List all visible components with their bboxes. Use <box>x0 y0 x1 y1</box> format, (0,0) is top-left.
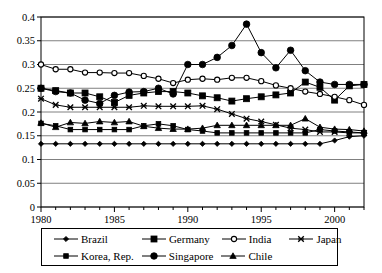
data-point <box>214 54 221 61</box>
data-point <box>140 88 147 95</box>
data-point <box>259 131 264 136</box>
data-point <box>347 98 352 103</box>
data-point <box>258 49 265 56</box>
x-tick-label: 1990 <box>177 214 198 225</box>
data-point <box>273 92 279 98</box>
data-point <box>185 90 191 96</box>
data-point <box>200 93 206 99</box>
legend-item-chile[interactable]: Chile <box>220 247 274 264</box>
data-point <box>97 94 103 100</box>
legend-label: Brazil <box>79 233 110 245</box>
legend-item-korea-rep[interactable]: Korea, Rep. <box>53 247 136 264</box>
data-point <box>303 131 308 136</box>
data-point <box>303 89 308 94</box>
data-point <box>229 42 236 49</box>
legend-item-germany[interactable]: Germany <box>141 230 212 247</box>
data-point <box>287 47 294 54</box>
legend-point <box>151 252 158 259</box>
legend-item-brazil[interactable]: Brazil <box>53 230 110 247</box>
legend-point <box>231 236 236 241</box>
y-tick-label: 0.25 <box>17 83 35 94</box>
data-point <box>273 65 280 72</box>
data-point <box>244 75 249 80</box>
data-point <box>200 76 205 81</box>
legend-point <box>151 236 157 242</box>
data-point <box>259 79 264 84</box>
legend-marker-square-small <box>53 250 79 262</box>
x-tick-label: 1980 <box>31 214 52 225</box>
data-point <box>229 98 235 104</box>
data-point <box>82 70 87 75</box>
data-point <box>361 81 368 88</box>
data-point <box>126 70 131 75</box>
data-point <box>171 80 176 85</box>
data-point <box>82 97 89 104</box>
data-point <box>111 92 118 99</box>
data-point <box>258 94 264 100</box>
data-point <box>274 131 279 136</box>
legend-item-japan[interactable]: Japan <box>288 230 343 247</box>
legend-item-india[interactable]: India <box>221 230 274 247</box>
legend-point <box>63 236 68 241</box>
y-tick-label: 0.3 <box>22 59 35 70</box>
data-point <box>155 85 162 92</box>
chart-figure: 00.050.10.150.20.250.30.350.419801985199… <box>0 0 382 273</box>
y-tick-label: 0.35 <box>17 35 35 46</box>
legend-label: Korea, Rep. <box>79 250 136 262</box>
y-tick-label: 0.2 <box>22 107 35 118</box>
data-point <box>141 73 146 78</box>
data-point <box>331 81 338 88</box>
legend-item-singapore[interactable]: Singapore <box>141 247 216 264</box>
data-point <box>53 67 58 72</box>
legend-marker-diamond <box>53 233 79 245</box>
data-point <box>302 79 308 85</box>
data-point <box>230 131 235 136</box>
data-point <box>288 86 293 91</box>
data-point <box>332 94 337 99</box>
data-point <box>82 90 88 96</box>
legend-marker-circle-filled <box>141 250 167 262</box>
data-point <box>68 67 73 72</box>
data-point <box>346 81 353 88</box>
data-point <box>199 61 206 68</box>
data-point <box>215 131 220 136</box>
data-point <box>273 83 278 88</box>
legend-row: Korea, Rep.SingaporeChile <box>45 247 334 264</box>
legend-label: Singapore <box>167 250 216 262</box>
data-point <box>38 85 45 92</box>
y-tick-label: 0.15 <box>17 130 35 141</box>
legend-label: India <box>247 233 274 245</box>
legend-marker-triangle <box>220 250 246 262</box>
legend-marker-x <box>288 233 314 245</box>
data-point <box>317 79 324 86</box>
data-point <box>170 91 177 98</box>
data-point <box>317 91 322 96</box>
data-point <box>156 76 161 81</box>
legend-point <box>64 253 69 258</box>
legend-label: Germany <box>167 233 212 245</box>
legend-label: Japan <box>314 233 343 245</box>
x-tick-label: 1995 <box>251 214 272 225</box>
y-tick-label: 0.05 <box>17 178 35 189</box>
data-point <box>185 77 190 82</box>
y-tick-label: 0 <box>30 202 35 213</box>
y-tick-label: 0.4 <box>22 12 36 23</box>
legend-marker-circle-open <box>221 233 247 245</box>
data-point <box>97 70 102 75</box>
x-tick-label: 2000 <box>324 214 345 225</box>
data-point <box>185 61 192 68</box>
data-point <box>288 131 293 136</box>
data-point <box>302 67 309 74</box>
data-point <box>361 102 366 107</box>
data-point <box>97 127 102 132</box>
data-point <box>214 95 220 101</box>
data-point <box>96 100 103 107</box>
data-point <box>52 88 59 95</box>
legend-row: BrazilGermanyIndiaJapan <box>45 230 334 247</box>
data-point <box>38 62 43 67</box>
legend-label: Chile <box>246 250 274 262</box>
data-point <box>229 75 234 80</box>
data-point <box>112 127 117 132</box>
data-point <box>215 77 220 82</box>
data-point <box>83 127 88 132</box>
